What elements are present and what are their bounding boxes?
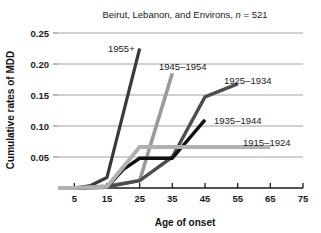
chart-container: Beirut, Lebanon, and Environs, n = 521 0… [0,0,321,233]
y-axis-title: Cumulative rates of MDD [5,51,16,169]
y-tick-label: 0.25 [31,28,50,39]
x-tick-label: 15 [102,193,113,204]
x-tick-label: 45 [200,193,211,204]
x-axis-title: Age of onset [155,217,216,228]
y-axis-ticks [53,33,58,157]
cumulative-mdd-line-chart: Beirut, Lebanon, and Environs, n = 521 0… [0,0,321,233]
label-1925-1934: 1925–1934 [224,75,272,86]
x-tick-label: 25 [134,193,145,204]
label-1935-1944: 1935–1944 [214,115,262,126]
y-axis-tick-labels: 0.050.100.150.200.25 [31,28,50,163]
x-tick-label: 75 [298,193,309,204]
label-1955: 1955+ [108,43,135,54]
series-line-1925-1934 [58,84,238,188]
y-tick-label: 0.20 [31,59,50,70]
y-tick-label: 0.10 [31,121,50,132]
label-1915-1924: 1915–1924 [243,137,291,148]
y-tick-label: 0.15 [31,90,50,101]
chart-title: Beirut, Lebanon, and Environs, n = 521 [102,9,267,20]
x-tick-label: 55 [232,193,243,204]
series-inline-labels: 1955+1945–19541925–19341935–19441915–192… [108,43,291,148]
x-tick-label: 5 [72,193,78,204]
x-axis-tick-labels: 515253545556575 [72,193,309,204]
series-line-1915-1924 [58,147,270,188]
y-tick-label: 0.05 [31,152,50,163]
label-1945-1954: 1945–1954 [159,61,207,72]
x-tick-label: 65 [265,193,276,204]
x-tick-label: 35 [167,193,178,204]
